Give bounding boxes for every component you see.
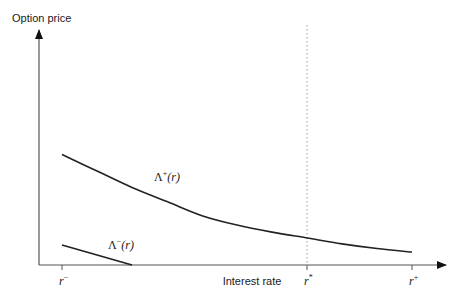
lambda-plus-label: Λ+(r) [154,169,180,184]
x-tick-label-r-minus: r− [59,273,69,288]
chart: Option price r−r*r+ Interest rate Λ+(r) … [0,0,459,298]
lambda-minus-label: Λ−(r) [108,237,134,252]
x-tick-label-r-plus: r+ [409,273,419,288]
lambda-plus-label-arg: (r) [167,170,180,184]
lambda-minus-label-arg: (r) [121,238,134,252]
lambda-minus-label-base: Λ [108,238,117,252]
y-axis-title: Option price [12,12,71,24]
x-axis-title: Interest rate [223,275,282,287]
lambda-plus-label-base: Λ [154,170,163,184]
x-tick-label-r-star: r* [304,273,313,288]
